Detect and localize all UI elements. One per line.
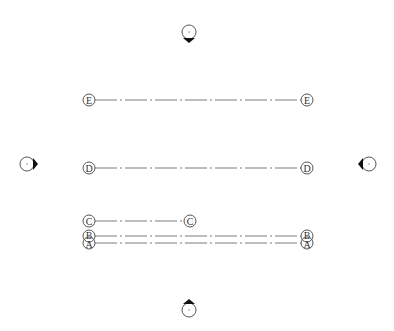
elevation-marker-east[interactable] bbox=[358, 157, 376, 171]
grid-canvas[interactable]: E E D D C C B B A A bbox=[0, 0, 394, 331]
elevation-arrow-down-icon bbox=[183, 38, 195, 43]
grid-label-d-right: D bbox=[303, 163, 310, 174]
grid-line-b[interactable]: B B bbox=[83, 230, 313, 243]
elevation-arrow-up-icon bbox=[183, 299, 195, 304]
grid-label-c-right: C bbox=[187, 216, 194, 227]
elevation-arrow-right-icon bbox=[33, 158, 38, 170]
elevation-center-dot-icon bbox=[188, 31, 190, 33]
grid-label-c-left: C bbox=[86, 216, 93, 227]
grid-line-c[interactable]: C C bbox=[83, 215, 196, 227]
elevation-marker-south[interactable] bbox=[182, 299, 196, 317]
grid-label-a-left: A bbox=[85, 239, 93, 250]
grid-label-d-left: D bbox=[85, 163, 92, 174]
grid-line-e[interactable]: E E bbox=[83, 94, 313, 106]
grid-line-d[interactable]: D D bbox=[83, 162, 313, 174]
grid-line-a[interactable]: A A bbox=[83, 237, 313, 250]
elevation-center-dot-icon bbox=[26, 163, 28, 165]
grid-label-a-right: A bbox=[303, 239, 311, 250]
grid-label-e-left: E bbox=[86, 95, 92, 106]
grid-label-e-right: E bbox=[304, 95, 310, 106]
elevation-marker-west[interactable] bbox=[20, 157, 38, 171]
elevation-marker-north[interactable] bbox=[182, 25, 196, 43]
elevation-arrow-left-icon bbox=[358, 158, 363, 170]
elevation-center-dot-icon bbox=[368, 163, 370, 165]
elevation-center-dot-icon bbox=[188, 309, 190, 311]
